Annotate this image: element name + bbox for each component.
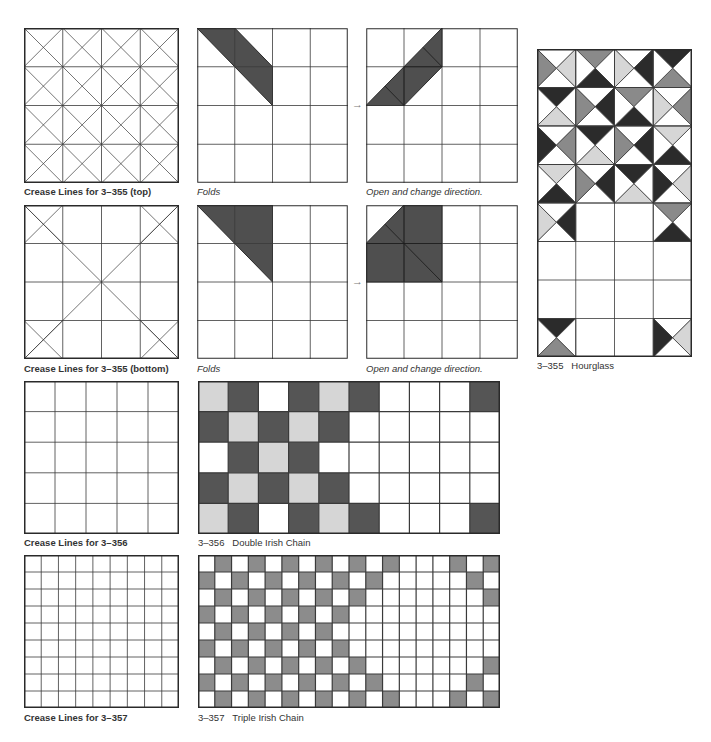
caption-open-top: Open and change direction. [366, 186, 483, 197]
caption-double-irish-chain: 3–356 Double Irish Chain [198, 537, 311, 548]
triple-irish-chain-diagram [198, 555, 500, 708]
crease-lines-355-bottom-diagram [24, 205, 179, 359]
caption-folds-bottom: Folds [197, 363, 220, 374]
caption-crease-357: Crease Lines for 3–357 [24, 712, 128, 723]
caption-crease-355-top: Crease Lines for 3–355 (top) [24, 186, 151, 197]
crease-lines-357-diagram [24, 555, 179, 708]
double-irish-chain-diagram [198, 381, 500, 534]
caption-triple-irish-chain: 3–357 Triple Irish Chain [198, 712, 304, 723]
crease-lines-355-top-diagram [24, 28, 179, 183]
open-change-direction-top-diagram [366, 28, 518, 183]
hourglass-quilt-diagram [537, 49, 692, 357]
arrow-right-icon: → [352, 276, 363, 287]
caption-crease-356: Crease Lines for 3–356 [24, 537, 128, 548]
open-change-direction-bottom-diagram [366, 205, 518, 359]
folds-bottom-diagram [197, 205, 348, 359]
caption-hourglass: 3–355 Hourglass [537, 360, 614, 371]
crease-lines-356-diagram [24, 381, 179, 534]
arrow-right-icon: → [352, 99, 363, 110]
caption-folds-top: Folds [197, 186, 220, 197]
caption-open-bottom: Open and change direction. [366, 363, 483, 374]
caption-crease-355-bottom: Crease Lines for 3–355 (bottom) [24, 363, 169, 374]
folds-top-diagram [197, 28, 348, 183]
